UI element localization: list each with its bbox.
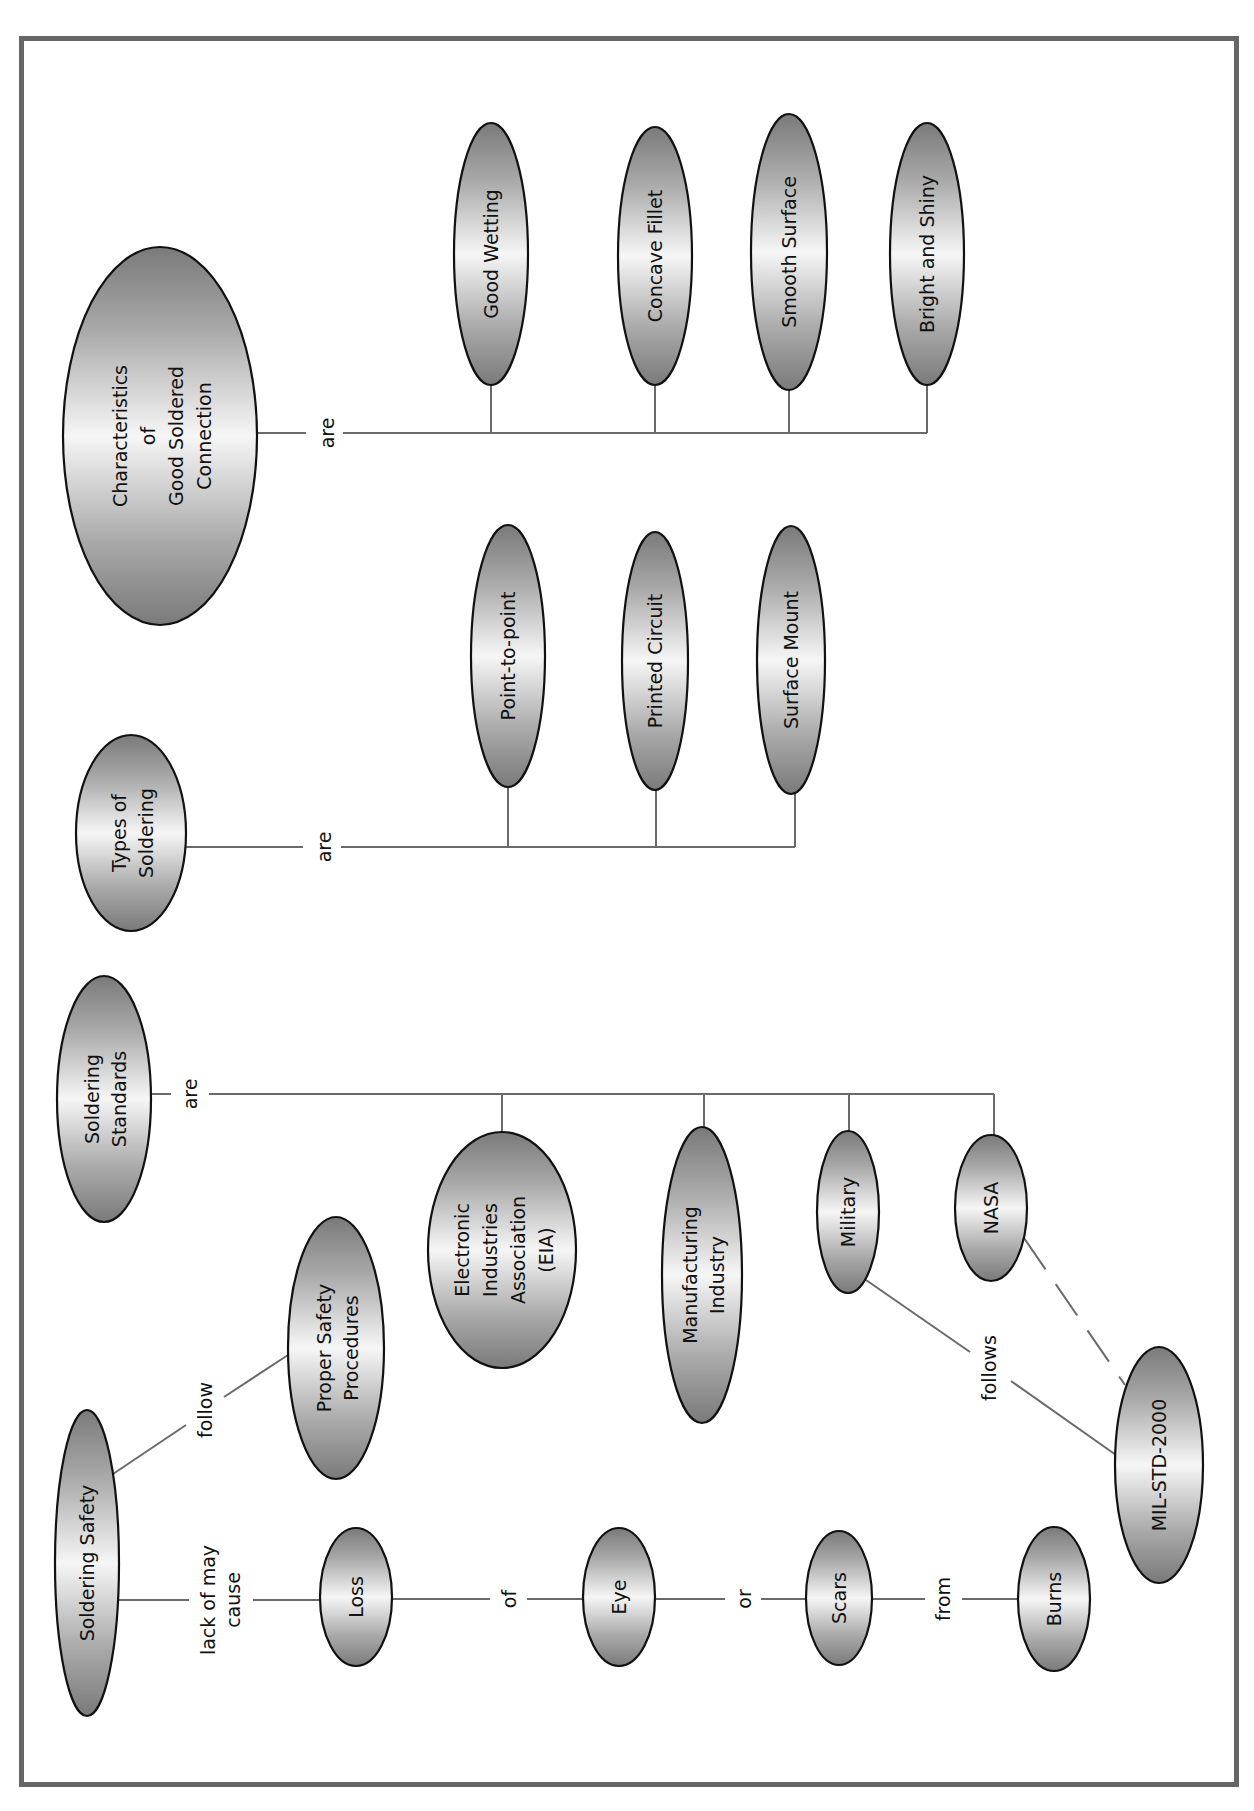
label-cause: cause	[222, 1572, 244, 1628]
node-label: Electronic	[451, 1203, 473, 1297]
node-label: Good Soldered	[165, 366, 187, 506]
node-mil-std-2000[interactable]: MIL-STD-2000	[1115, 1347, 1203, 1583]
node-label: of	[137, 426, 159, 446]
node-label: Soldering Safety	[76, 1485, 98, 1642]
link-safety-follow	[113, 1425, 186, 1474]
label-are-characteristics: are	[316, 418, 338, 449]
node-label: Smooth Surface	[778, 176, 800, 328]
node-concave-fillet[interactable]: Concave Fillet	[618, 127, 692, 385]
node-label: Eye	[608, 1580, 630, 1615]
node-label: MIL-STD-2000	[1148, 1399, 1170, 1532]
node-label: Military	[837, 1177, 859, 1247]
node-label: Types of	[108, 793, 130, 873]
node-label: Good Wetting	[480, 189, 502, 319]
link-labels: are are are follow lack of may cause of …	[179, 418, 1000, 1655]
node-label: Printed Circuit	[644, 594, 666, 729]
node-bright-and-shiny[interactable]: Bright and Shiny	[890, 123, 964, 385]
node-label: Industries	[479, 1203, 501, 1297]
node-scars[interactable]: Scars	[806, 1531, 872, 1665]
node-label: Soldering	[135, 788, 157, 878]
link-follow-psp	[224, 1355, 288, 1397]
label-are-standards: are	[179, 1079, 201, 1110]
node-label: Proper Safety	[313, 1284, 335, 1413]
node-label: (EIA)	[535, 1227, 557, 1272]
node-manufacturing-industry[interactable]: Manufacturing Industry	[662, 1127, 742, 1423]
node-printed-circuit[interactable]: Printed Circuit	[622, 532, 688, 790]
node-label: Characteristics	[109, 365, 131, 507]
label-of: of	[498, 1589, 520, 1609]
node-characteristics[interactable]: Characteristics of Good Soldered Connect…	[63, 247, 257, 625]
node-label: Surface Mount	[780, 591, 802, 729]
node-label: Standards	[108, 1051, 130, 1147]
label-from: from	[932, 1577, 954, 1621]
node-label: Burns	[1043, 1572, 1065, 1627]
label-or: or	[733, 1589, 755, 1609]
node-burns[interactable]: Burns	[1018, 1527, 1090, 1671]
node-soldering-standards[interactable]: Soldering Standards	[57, 976, 151, 1222]
node-eye[interactable]: Eye	[583, 1528, 655, 1666]
link-nasa-mil-std-dashed	[1024, 1238, 1125, 1385]
node-military[interactable]: Military	[817, 1131, 879, 1293]
node-nasa[interactable]: NASA	[955, 1135, 1027, 1281]
node-label: Connection	[193, 382, 215, 490]
node-label: Soldering	[81, 1054, 103, 1144]
label-are-types: are	[313, 832, 335, 863]
nodes: Characteristics of Good Soldered Connect…	[55, 114, 1203, 1716]
links	[113, 385, 1125, 1600]
node-label: Scars	[828, 1572, 850, 1624]
label-follows: follows	[978, 1335, 1000, 1401]
link-military-follows	[866, 1280, 970, 1352]
link-follows-mil-std	[1011, 1381, 1116, 1455]
node-good-wetting[interactable]: Good Wetting	[454, 123, 528, 385]
node-loss[interactable]: Loss	[320, 1528, 392, 1666]
node-label: Bright and Shiny	[916, 175, 938, 333]
node-soldering-safety[interactable]: Soldering Safety	[55, 1410, 119, 1716]
node-surface-mount[interactable]: Surface Mount	[757, 526, 825, 794]
node-point-to-point[interactable]: Point-to-point	[471, 525, 545, 787]
node-proper-safety-procedures[interactable]: Proper Safety Procedures	[288, 1217, 384, 1479]
concept-map: are are are follow lack of may cause of …	[0, 0, 1254, 1811]
label-follow: follow	[194, 1382, 216, 1438]
label-lack-of-may: lack of may	[197, 1545, 219, 1655]
node-label: Point-to-point	[497, 592, 519, 721]
node-label: Association	[507, 1196, 529, 1304]
node-label: Concave Fillet	[644, 190, 666, 323]
node-label: Industry	[706, 1236, 728, 1314]
node-label: Manufacturing	[679, 1206, 701, 1344]
node-label: Loss	[345, 1576, 367, 1618]
node-label: NASA	[980, 1182, 1002, 1235]
node-label: Procedures	[340, 1295, 362, 1400]
node-eia[interactable]: Electronic Industries Association (EIA)	[428, 1132, 576, 1368]
node-smooth-surface[interactable]: Smooth Surface	[751, 114, 827, 390]
node-types-of-soldering[interactable]: Types of Soldering	[76, 735, 186, 931]
